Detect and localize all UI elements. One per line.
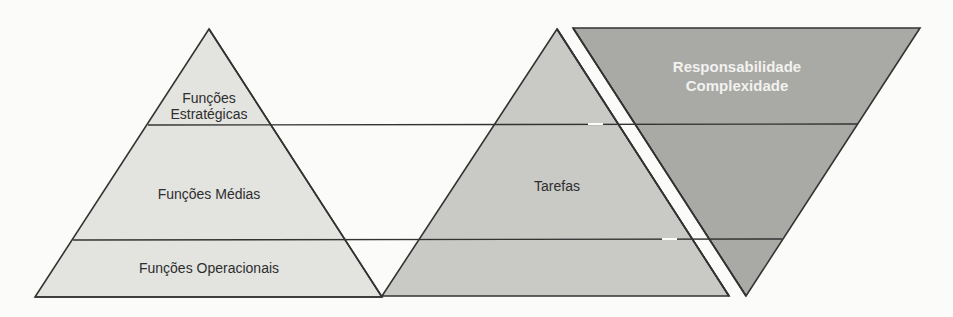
label-line: Estratégicas (170, 106, 247, 122)
label-funcoes-operacionais: Funções Operacionais (139, 260, 279, 276)
label-responsabilidade-complexidade: Responsabilidade Complexidade (673, 57, 801, 95)
label-line: Responsabilidade (673, 57, 801, 76)
left-pyramid-funcoes (35, 29, 382, 297)
label-funcoes-estrategicas: Funções Estratégicas (170, 90, 247, 122)
label-line: Complexidade (673, 76, 801, 95)
label-tarefas: Tarefas (534, 178, 580, 194)
label-funcoes-medias: Funções Médias (158, 186, 261, 202)
label-line: Funções (170, 90, 247, 106)
